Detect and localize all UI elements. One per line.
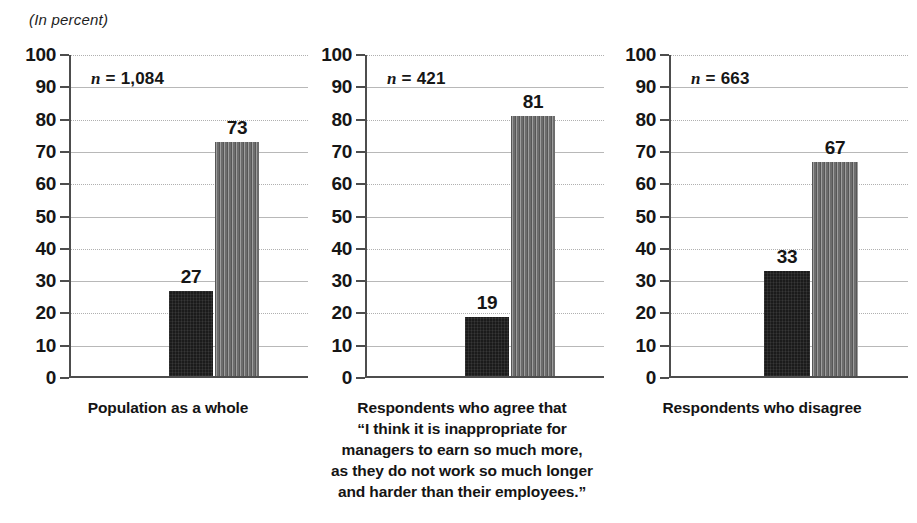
gridline <box>71 249 308 250</box>
y-tick-label: 60 <box>635 173 656 195</box>
plot-area: 1009080706050403020100 n = 1,084 2773 <box>22 55 308 390</box>
n-value: 663 <box>721 69 750 88</box>
bar-gray: 73 <box>215 142 259 376</box>
sample-size-note: n = 663 <box>691 69 750 89</box>
y-tick-mark <box>356 377 365 379</box>
y-tick-label: 30 <box>331 270 352 292</box>
y-tick-label: 70 <box>35 140 56 162</box>
n-value: 1,084 <box>121 69 165 88</box>
y-tick-mark <box>60 183 69 185</box>
y-tick-label: 10 <box>331 334 352 356</box>
y-tick-label: 20 <box>331 302 352 324</box>
y-tick-label: 30 <box>635 270 656 292</box>
y-tick-label: 90 <box>35 76 56 98</box>
bar-dark: 27 <box>169 291 213 376</box>
y-tick-mark <box>60 151 69 153</box>
y-tick-mark <box>660 248 669 250</box>
bar-value-label: 67 <box>825 137 846 159</box>
y-tick-mark <box>60 345 69 347</box>
bar-value-label: 33 <box>777 246 798 268</box>
y-tick-label: 40 <box>635 237 656 259</box>
gridline <box>671 217 908 218</box>
gridline <box>367 184 604 185</box>
caption-line: Respondents who agree that <box>312 397 612 418</box>
gridline <box>671 120 908 121</box>
y-tick-label: 90 <box>635 76 656 98</box>
gridline <box>71 184 308 185</box>
n-symbol: n <box>91 69 101 88</box>
y-tick-mark <box>60 280 69 282</box>
bar-value-label: 27 <box>181 266 202 288</box>
n-equals: = <box>397 69 417 88</box>
y-tick-mark <box>660 183 669 185</box>
y-tick-mark <box>356 248 365 250</box>
bar-gray: 81 <box>511 116 555 376</box>
y-tick-label: 70 <box>635 140 656 162</box>
gridline <box>71 152 308 153</box>
x-axis-line <box>69 376 308 378</box>
y-tick-label: 80 <box>635 108 656 130</box>
y-tick-mark <box>60 119 69 121</box>
chart-caption-disagree: Respondents who disagree <box>612 397 912 418</box>
gridline <box>71 217 308 218</box>
axis-area: 1009080706050403020100 n = 1,084 2773 <box>69 55 308 378</box>
bar-gray: 67 <box>812 162 858 376</box>
gridline <box>671 184 908 185</box>
y-tick-label: 80 <box>331 108 352 130</box>
y-tick-label: 40 <box>331 237 352 259</box>
n-equals: = <box>701 69 721 88</box>
y-tick-label: 10 <box>35 334 56 356</box>
n-symbol: n <box>691 69 701 88</box>
y-tick-label: 30 <box>35 270 56 292</box>
gridline <box>367 55 604 56</box>
y-tick-mark <box>356 183 365 185</box>
chart-caption-agree: Respondents who agree that“I think it is… <box>312 397 612 502</box>
n-symbol: n <box>387 69 397 88</box>
caption-line: “I think it is inappropriate for <box>312 418 612 439</box>
caption-line: Respondents who disagree <box>612 397 912 418</box>
y-tick-label: 70 <box>331 140 352 162</box>
y-tick-label: 80 <box>35 108 56 130</box>
y-tick-label: 40 <box>35 237 56 259</box>
y-tick-label: 50 <box>635 205 656 227</box>
y-tick-label: 50 <box>35 205 56 227</box>
y-tick-label: 20 <box>635 302 656 324</box>
chart-panel-agree: 1009080706050403020100 n = 421 1981 <box>318 55 604 390</box>
axis-area: 1009080706050403020100 n = 663 3367 <box>669 55 908 378</box>
y-tick-label: 100 <box>25 44 56 66</box>
gridline <box>671 152 908 153</box>
bar-dark: 19 <box>465 317 509 376</box>
unit-label: (In percent) <box>29 11 108 28</box>
y-tick-mark <box>660 151 669 153</box>
n-equals: = <box>101 69 121 88</box>
y-tick-mark <box>356 54 365 56</box>
gridline <box>71 120 308 121</box>
gridline <box>71 55 308 56</box>
axis-area: 1009080706050403020100 n = 421 1981 <box>365 55 604 378</box>
bar-value-label: 81 <box>523 91 544 113</box>
y-tick-mark <box>660 280 669 282</box>
bar-dark: 33 <box>764 271 810 376</box>
y-tick-mark <box>660 86 669 88</box>
y-tick-mark <box>356 345 365 347</box>
caption-line: managers to earn so much more, <box>312 439 612 460</box>
y-tick-label: 100 <box>625 44 656 66</box>
gridline <box>367 217 604 218</box>
y-tick-label: 0 <box>342 367 352 389</box>
bar-value-label: 73 <box>227 117 248 139</box>
y-tick-mark <box>356 216 365 218</box>
y-tick-mark <box>660 345 669 347</box>
sample-size-note: n = 421 <box>387 69 446 89</box>
y-tick-mark <box>660 216 669 218</box>
y-tick-mark <box>60 248 69 250</box>
y-tick-label: 90 <box>331 76 352 98</box>
y-tick-mark <box>60 86 69 88</box>
y-tick-label: 50 <box>331 205 352 227</box>
n-value: 421 <box>417 69 446 88</box>
plot-area: 1009080706050403020100 n = 421 1981 <box>318 55 604 390</box>
gridline <box>367 120 604 121</box>
y-tick-mark <box>60 54 69 56</box>
y-tick-mark <box>356 151 365 153</box>
caption-line: as they do not work so much longer <box>312 460 612 481</box>
y-tick-mark <box>660 312 669 314</box>
